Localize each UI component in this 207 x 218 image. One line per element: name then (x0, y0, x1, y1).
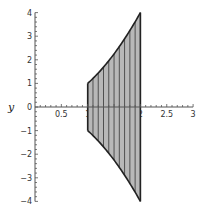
x-tick-label: 0.5 (55, 110, 68, 119)
y-tick-label: 0 (27, 103, 32, 112)
y-tick-label: 3 (27, 32, 32, 41)
plot-area: 0.511.522.53−4−3−2−101234 y (0, 0, 207, 218)
y-tick-label: 2 (27, 56, 32, 65)
x-tick-label: 2.5 (160, 110, 173, 119)
y-tick-label: −2 (20, 150, 32, 159)
y-tick-label: −3 (20, 174, 32, 183)
y-tick-label: 1 (27, 79, 32, 88)
y-tick-label: −1 (20, 127, 32, 136)
y-axis-label: y (7, 101, 15, 114)
y-tick-label: −4 (20, 197, 32, 206)
y-tick-label: 4 (27, 9, 32, 18)
x-tick-label: 3 (191, 110, 196, 119)
